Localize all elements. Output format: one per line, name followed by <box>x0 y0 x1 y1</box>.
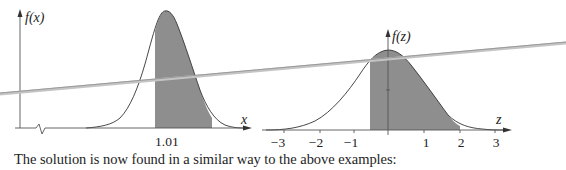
right-x-label: z <box>495 112 502 127</box>
left-shaded-area <box>155 11 212 128</box>
left-y-label: f(x) <box>25 10 45 26</box>
left-y-axis-arrow-icon <box>18 9 23 17</box>
figure-normal-distributions: f(x) x 1.01 −3 −2 −1 1 2 3 f(z) z <box>0 0 566 170</box>
right-tick-neg3: −3 <box>271 135 286 150</box>
right-tick-3: 3 <box>493 135 500 150</box>
left-tick-1-01: 1.01 <box>155 134 179 149</box>
right-tick-2: 2 <box>458 135 465 150</box>
right-y-axis-arrow-icon <box>386 29 391 37</box>
right-x-axis-arrow-icon <box>503 128 512 133</box>
right-y-label: f(z) <box>392 29 411 45</box>
right-tick-neg1: −1 <box>344 135 358 150</box>
overlay-line <box>0 42 566 94</box>
left-x-label: x <box>240 112 248 127</box>
right-tick-neg2: −2 <box>309 135 323 150</box>
right-shaded-area <box>370 50 460 130</box>
right-chart: −3 −2 −1 1 2 3 f(z) z <box>262 29 512 150</box>
left-chart: f(x) x 1.01 <box>15 9 252 149</box>
caption-text: The solution is now found in a similar w… <box>14 151 397 168</box>
right-tick-1: 1 <box>423 135 430 150</box>
